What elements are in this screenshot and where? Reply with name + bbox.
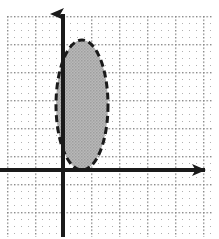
grid-major-vertical-lines bbox=[7, 16, 212, 237]
coordinate-plane-figure bbox=[0, 0, 219, 239]
dotted-grid bbox=[7, 16, 212, 237]
plot-canvas bbox=[0, 0, 219, 239]
